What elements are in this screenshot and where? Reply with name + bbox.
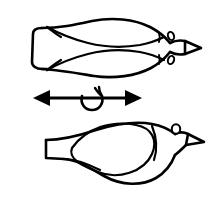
top-view-beak [185,41,201,54]
top-view-eye-right [167,55,175,65]
top-view-tail-fan [32,28,47,69]
bird-rotation-figure: Bird shown in two orientations [0,0,212,200]
top-view-head-outline-lower [170,52,185,54]
top-view-head-notch-lower [159,55,160,64]
top-view-left-wing [47,27,164,47]
top-view-head-notch-upper [159,33,160,42]
side-view-wing-oval [71,124,154,176]
top-view-bird [32,19,201,77]
rotation-arrow-head-right [125,90,142,106]
rotation-symbol-hook [95,87,102,96]
top-view-body-upper-contour [42,19,170,43]
rotation-indicator [33,87,142,110]
side-view-beak [186,134,204,145]
side-view-bird [46,123,204,184]
side-view-belly-contour [64,155,175,184]
side-view-head-outline-lower [175,145,186,155]
top-view-right-wing [47,50,164,70]
figure-canvas [0,0,212,200]
side-view-tail-strip [46,140,64,159]
rotation-arrow-head-left [33,90,50,106]
side-view-eye [172,124,180,134]
